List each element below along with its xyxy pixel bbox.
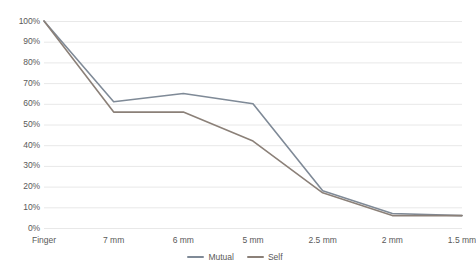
legend-swatch-icon — [247, 256, 264, 258]
series-line-mutual — [44, 21, 462, 216]
y-axis-tick-label: 20% — [6, 182, 40, 191]
legend-item-self[interactable]: Self — [247, 253, 283, 262]
x-axis-tick-label: 2.5 mm — [308, 236, 336, 245]
y-axis-tick-label: 0% — [6, 224, 40, 233]
x-axis-tick-label: 1.5 mm — [448, 236, 476, 245]
y-axis-tick-label: 80% — [6, 58, 40, 67]
x-axis-tick-label: 6 mm — [173, 236, 194, 245]
x-axis-tick-label: 5 mm — [242, 236, 263, 245]
legend-swatch-icon — [187, 256, 204, 258]
legend-item-mutual[interactable]: Mutual — [187, 253, 234, 262]
x-axis-tick-label: 2 mm — [382, 236, 403, 245]
series-line-self — [44, 21, 462, 216]
chart-legend: MutualSelf — [0, 253, 470, 262]
y-axis-tick-label: 50% — [6, 120, 40, 129]
gridlines — [44, 22, 462, 229]
y-axis-tick-label: 10% — [6, 203, 40, 212]
x-axis-tick-label: 7 mm — [103, 236, 124, 245]
y-axis-tick-label: 30% — [6, 161, 40, 170]
y-axis-tick-label: 100% — [6, 17, 40, 26]
legend-label: Self — [268, 253, 283, 262]
x-axis: Finger7 mm6 mm5 mm2.5 mm2 mm1.5 mm — [0, 232, 470, 248]
y-axis-tick-label: 40% — [6, 141, 40, 150]
y-axis-tick-label: 90% — [6, 37, 40, 46]
y-axis-tick-label: 70% — [6, 79, 40, 88]
y-axis-tick-label: 60% — [6, 99, 40, 108]
x-axis-tick-label: Finger — [32, 236, 56, 245]
legend-label: Mutual — [208, 253, 234, 262]
